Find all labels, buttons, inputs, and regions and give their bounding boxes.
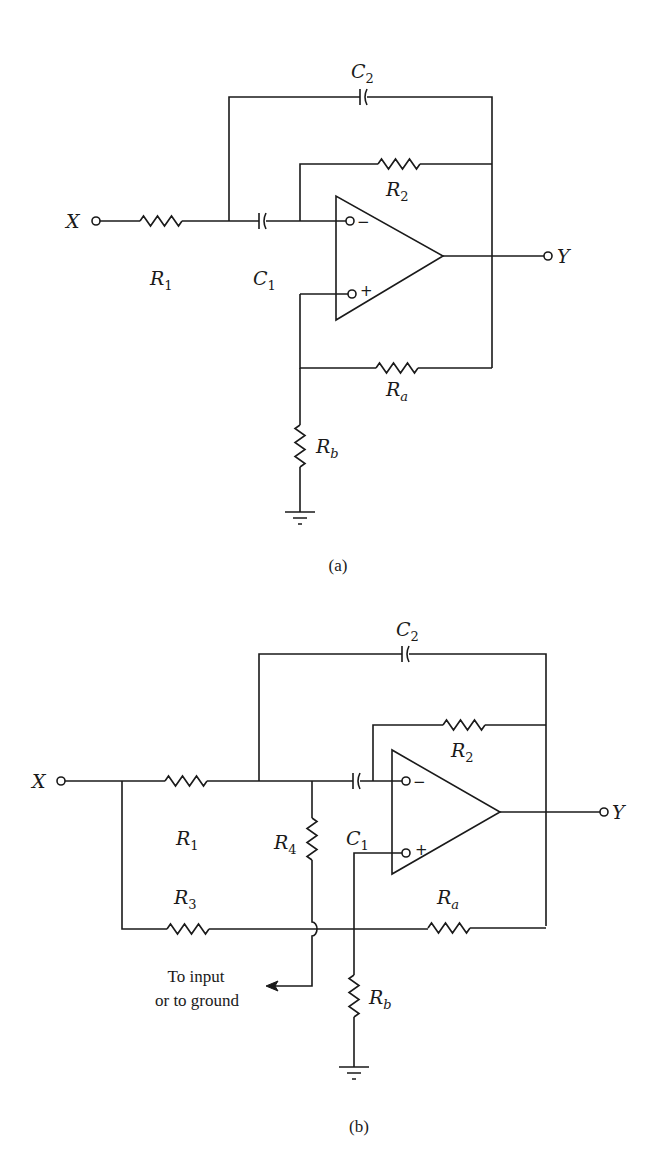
wire-hop-b [272,860,317,986]
output-terminal-a [544,252,552,260]
caption-b: (b) [349,1117,369,1136]
wire-input-a [100,213,346,229]
label-r1-a: R1 [149,267,173,293]
resistor-r2-a [378,159,420,169]
note-line-2: or to ground [155,991,240,1010]
capacitor-c1-b [353,773,360,789]
label-rb-a: Rb [315,435,339,461]
resistor-r1-a [140,216,182,226]
ground-a [285,512,315,524]
note-line-1: To input [168,967,225,986]
label-c1-a: C1 [253,267,276,293]
input-terminal-b [57,777,65,785]
resistor-r4-b [307,818,317,860]
circuit-a [92,89,552,524]
label-ra-b: Ra [436,886,459,912]
capacitor-c1-a [259,213,266,229]
label-rb-b: Rb [368,986,392,1012]
label-y-b: Y [612,801,627,823]
resistor-r2-b [443,720,485,730]
input-terminal-a [92,217,100,225]
label-x-b: X [30,770,47,792]
label-x-a: X [64,210,81,232]
noninverting-terminal-a [348,290,356,298]
resistor-r1-b [165,776,207,786]
resistor-ra-b [428,923,470,933]
resistor-rb-b [349,975,359,1017]
noninverting-terminal-b [402,849,410,857]
label-y-a: Y [557,245,572,267]
caption-a: (a) [329,556,348,575]
label-r2-a: R2 [385,178,409,204]
label-c1-b: C1 [346,827,369,853]
resistor-rb-a [295,425,305,467]
label-r2-b: R2 [450,739,474,765]
label-c2-a: C2 [351,60,374,86]
plus-sign-b: + [415,841,428,859]
ground-b [339,1067,369,1079]
resistor-ra-a [376,363,418,373]
circuit-b [57,646,608,1079]
capacitor-c2-b [402,646,409,662]
wire-c2-loop-b [259,654,546,926]
label-r4-b: R4 [273,831,297,857]
label-r1-b: R1 [175,827,199,853]
label-r3-b: R3 [173,886,197,912]
inverting-terminal-a [346,217,354,225]
plus-sign-a: + [360,282,373,300]
minus-sign-a: − [357,213,370,231]
output-terminal-b [600,808,608,816]
capacitor-c2-a [360,89,367,105]
label-ra-a: Ra [385,378,408,404]
minus-sign-b: − [413,773,426,791]
label-c2-b: C2 [396,618,419,644]
wire-c2-loop-a [229,97,492,368]
resistor-r3-b [167,924,209,934]
inverting-terminal-b [402,777,410,785]
opamp-a [336,196,443,320]
